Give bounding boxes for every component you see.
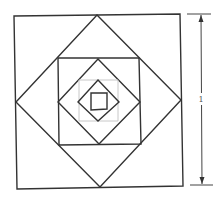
arrowhead-down-icon bbox=[200, 177, 205, 184]
dimension-line: 1 bbox=[187, 14, 213, 185]
large-diamond bbox=[16, 15, 181, 187]
middle-diamond bbox=[58, 59, 140, 144]
middle-square bbox=[58, 58, 141, 145]
faint-square bbox=[79, 80, 118, 121]
nested-squares-diagram: 1 bbox=[0, 0, 219, 201]
outer-square bbox=[14, 14, 183, 189]
arrowhead-up-icon bbox=[199, 15, 204, 22]
dimension-label: 1 bbox=[198, 95, 203, 104]
inner-square bbox=[91, 93, 107, 110]
small-diamond bbox=[78, 80, 119, 121]
